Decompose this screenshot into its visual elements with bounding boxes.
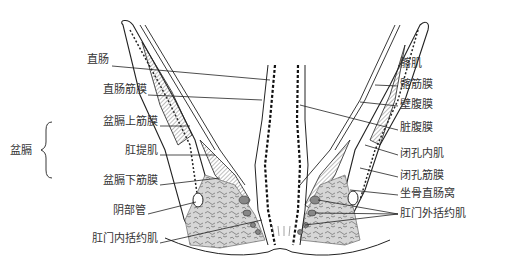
label-rectal-fascia: 直肠筋膜 <box>103 84 147 96</box>
label-pudendal-canal: 阴部管 <box>113 205 146 217</box>
label-iliacus: 髂肌 <box>400 58 422 70</box>
label-obturator-fascia: 闭孔筋膜 <box>400 170 444 182</box>
label-pelvic-diaphragm: 盆膈 <box>10 145 32 157</box>
label-levator-ani: 肛提肌 <box>125 145 158 157</box>
anatomy-drawing <box>0 0 507 271</box>
label-superior-fascia: 盆膈上筋膜 <box>103 116 158 128</box>
label-iliac-fascia: 髂筋膜 <box>400 79 433 91</box>
anatomy-figure: 直肠 直肠筋膜 盆膈上筋膜 肛提肌 盆膈下筋膜 阴部管 肛门内括约肌 盆膈 髂肌… <box>0 0 507 271</box>
right-pudendal-canal <box>348 191 358 205</box>
label-parietal-peritoneum: 壁腹膜 <box>400 99 433 111</box>
label-external-anal-sphincter: 肛门外括约肌 <box>400 208 466 220</box>
label-rectum: 直肠 <box>87 54 109 66</box>
label-visceral-peritoneum: 脏腹膜 <box>400 122 433 134</box>
label-ischioanal-fossa: 坐骨直肠窝 <box>400 188 455 200</box>
label-inferior-fascia: 盆膈下筋膜 <box>103 175 158 187</box>
left-pudendal-canal <box>193 193 203 207</box>
pelvic-diaphragm-brace <box>41 122 52 178</box>
label-internal-anal-sphincter: 肛门内括约肌 <box>92 233 158 245</box>
label-obturator-internus: 闭孔内肌 <box>400 148 444 160</box>
rectum <box>255 65 308 245</box>
